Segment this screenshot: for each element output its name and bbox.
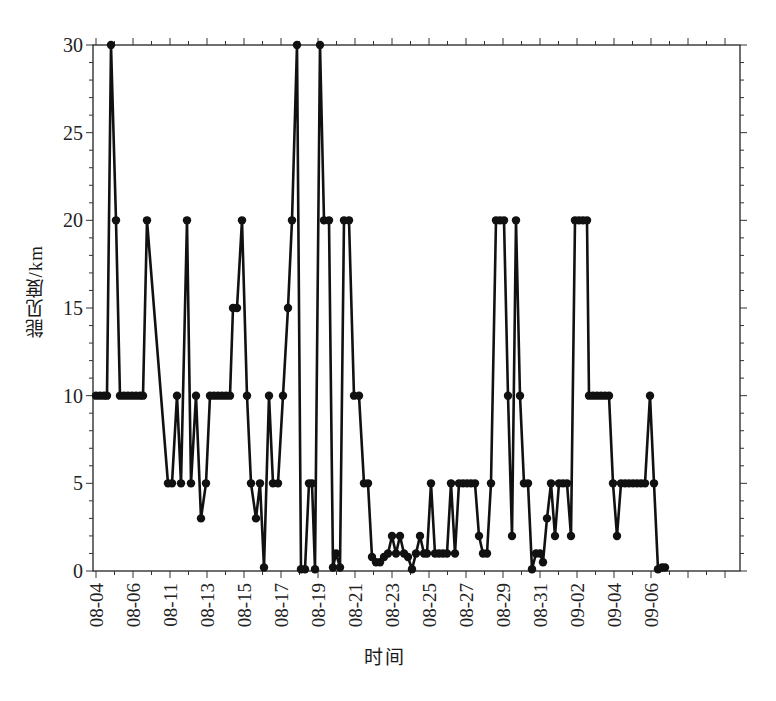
plot-frame xyxy=(93,45,740,571)
data-point-marker xyxy=(107,41,115,49)
data-point-marker xyxy=(274,479,282,487)
data-point-marker xyxy=(536,549,544,557)
y-tick-label: 15 xyxy=(63,297,83,319)
data-point-marker xyxy=(238,216,246,224)
x-axis-ticks: 08-0408-0608-1108-1308-1508-1708-1908-21… xyxy=(86,38,725,627)
x-tick-label: 08-31 xyxy=(530,583,551,627)
data-point-marker xyxy=(416,532,424,540)
x-tick-label: 09-02 xyxy=(567,583,588,627)
data-point-marker xyxy=(443,549,451,557)
data-point-marker xyxy=(528,565,536,573)
data-point-marker xyxy=(103,391,111,399)
data-point-marker xyxy=(177,479,185,487)
data-point-marker xyxy=(311,565,319,573)
visibility-series xyxy=(92,41,669,574)
data-point-marker xyxy=(332,549,340,557)
data-point-marker xyxy=(512,216,520,224)
data-point-marker xyxy=(173,391,181,399)
data-point-marker xyxy=(563,479,571,487)
data-point-marker xyxy=(308,479,316,487)
y-axis-label: 能见度/km xyxy=(22,245,48,338)
data-point-marker xyxy=(516,391,524,399)
data-point-marker xyxy=(609,479,617,487)
data-point-marker xyxy=(197,514,205,522)
data-point-marker xyxy=(355,391,363,399)
x-tick-label: 08-23 xyxy=(382,583,403,627)
data-point-marker xyxy=(412,549,420,557)
data-point-marker xyxy=(384,549,392,557)
data-point-marker xyxy=(404,553,412,561)
y-tick-label: 30 xyxy=(63,34,83,56)
data-point-marker xyxy=(316,41,324,49)
data-point-marker xyxy=(168,479,176,487)
x-tick-label: 08-06 xyxy=(123,583,144,627)
data-point-marker xyxy=(547,479,555,487)
data-point-marker xyxy=(336,563,344,571)
data-point-marker xyxy=(508,532,516,540)
data-point-marker xyxy=(112,216,120,224)
data-point-marker xyxy=(447,479,455,487)
data-point-marker xyxy=(256,479,264,487)
data-point-marker xyxy=(247,479,255,487)
x-tick-label: 09-04 xyxy=(604,583,625,628)
x-tick-label: 08-15 xyxy=(234,583,255,627)
data-point-marker xyxy=(226,391,234,399)
visibility-line-chart: 051015202530 08-0408-0608-1108-1308-1508… xyxy=(0,0,776,701)
x-tick-label: 08-19 xyxy=(308,583,329,627)
x-tick-label: 08-21 xyxy=(345,583,366,627)
data-point-marker xyxy=(396,532,404,540)
data-point-marker xyxy=(187,479,195,487)
data-point-marker xyxy=(252,514,260,522)
data-point-marker xyxy=(475,532,483,540)
data-point-marker xyxy=(543,514,551,522)
data-point-marker xyxy=(202,479,210,487)
x-tick-label: 09-06 xyxy=(641,583,662,627)
data-point-marker xyxy=(408,565,416,573)
data-point-marker xyxy=(139,391,147,399)
x-tick-label: 08-17 xyxy=(271,583,292,627)
data-point-marker xyxy=(265,391,273,399)
data-point-marker xyxy=(427,479,435,487)
data-point-marker xyxy=(143,216,151,224)
data-point-marker xyxy=(301,565,309,573)
data-point-marker xyxy=(243,391,251,399)
data-point-marker xyxy=(279,391,287,399)
data-point-marker xyxy=(451,549,459,557)
data-point-marker xyxy=(646,391,654,399)
data-point-marker xyxy=(325,216,333,224)
x-axis-label: 时间 xyxy=(340,642,430,669)
data-point-marker xyxy=(500,216,508,224)
data-point-marker xyxy=(364,479,372,487)
data-point-marker xyxy=(605,391,613,399)
data-point-marker xyxy=(487,479,495,487)
x-tick-label: 08-29 xyxy=(493,583,514,627)
data-point-marker xyxy=(192,391,200,399)
data-point-marker xyxy=(641,479,649,487)
data-point-marker xyxy=(260,563,268,571)
data-point-marker xyxy=(345,216,353,224)
data-point-marker xyxy=(284,304,292,312)
x-tick-label: 08-13 xyxy=(197,583,218,627)
data-point-marker xyxy=(183,216,191,224)
y-tick-label: 20 xyxy=(63,209,83,231)
y-tick-label: 25 xyxy=(63,122,83,144)
data-point-marker xyxy=(423,549,431,557)
plot-border xyxy=(93,45,740,571)
data-point-marker xyxy=(567,532,575,540)
data-point-marker xyxy=(524,479,532,487)
series-line xyxy=(96,45,665,569)
data-point-marker xyxy=(504,391,512,399)
data-point-marker xyxy=(661,563,669,571)
y-axis-ticks: 051015202530 xyxy=(63,34,747,582)
data-point-marker xyxy=(233,304,241,312)
data-point-marker xyxy=(539,558,547,566)
data-point-marker xyxy=(613,532,621,540)
data-point-marker xyxy=(650,479,658,487)
data-point-marker xyxy=(392,549,400,557)
data-point-marker xyxy=(583,216,591,224)
data-point-marker xyxy=(288,216,296,224)
data-point-marker xyxy=(388,532,396,540)
data-point-marker xyxy=(471,479,479,487)
y-tick-label: 0 xyxy=(73,560,83,582)
data-point-marker xyxy=(483,549,491,557)
